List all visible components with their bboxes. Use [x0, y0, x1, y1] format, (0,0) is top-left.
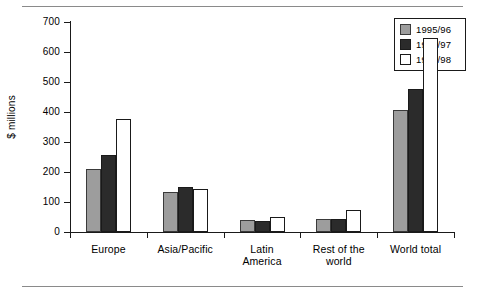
legend-label: 1995/96: [416, 24, 451, 35]
legend-swatch: [400, 24, 411, 35]
legend-swatch: [400, 54, 411, 65]
bar: [316, 219, 331, 233]
bar: [193, 189, 208, 233]
bar: [393, 110, 408, 232]
x-axis-label-line: world: [292, 255, 385, 267]
bar: [255, 221, 270, 232]
bar: [270, 217, 285, 232]
bar: [240, 220, 255, 232]
legend-swatch: [400, 39, 411, 50]
y-tick: [64, 142, 71, 143]
bar: [163, 192, 178, 233]
y-axis-title: $ millions: [7, 72, 17, 162]
y-tick-label: 400: [24, 107, 60, 117]
y-tick: [64, 202, 71, 203]
x-tick: [300, 232, 301, 238]
legend-item: 1995/96: [400, 23, 461, 36]
y-tick-label: 300: [24, 137, 60, 147]
y-tick-label: 0: [24, 227, 60, 237]
bar: [408, 89, 423, 232]
y-tick-label: 600: [24, 47, 60, 57]
bar: [331, 219, 346, 232]
bar: [178, 187, 193, 232]
x-axis-label: World total: [369, 243, 462, 255]
bar: [346, 210, 361, 233]
x-axis-line: [70, 232, 454, 233]
x-tick: [377, 232, 378, 238]
y-tick-label: 700: [24, 17, 60, 27]
x-tick: [147, 232, 148, 238]
y-tick-label: 200: [24, 167, 60, 177]
y-tick-label: 100: [24, 197, 60, 207]
x-tick: [224, 232, 225, 238]
y-tick: [64, 112, 71, 113]
bar: [423, 38, 438, 232]
x-tick: [70, 232, 71, 238]
y-tick: [64, 22, 71, 23]
y-tick: [64, 172, 71, 173]
x-tick: [454, 232, 455, 238]
y-tick: [64, 52, 71, 53]
bar: [116, 119, 131, 232]
bar-chart: $ millions 0100200300400500600700 Europe…: [0, 0, 477, 294]
bar: [86, 169, 101, 232]
x-axis-label-line: World total: [369, 243, 462, 255]
y-tick: [64, 82, 71, 83]
bar: [101, 155, 116, 232]
y-tick-label: 500: [24, 77, 60, 87]
